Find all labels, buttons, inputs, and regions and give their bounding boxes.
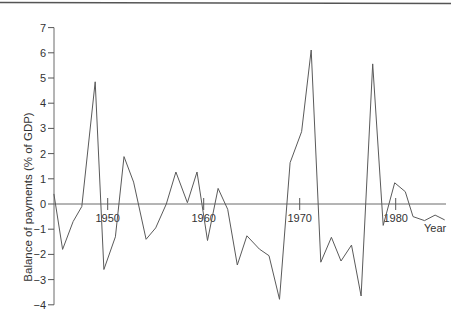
y-tick-label: 1 (40, 173, 46, 185)
y-tick-label: 7 (40, 22, 46, 34)
y-tick-label: −2 (33, 248, 46, 260)
y-axis-title: Balance of payments (% of GDP) (22, 112, 34, 282)
y-tick-label: 0 (40, 198, 46, 210)
x-tick-label: 1950 (95, 212, 119, 224)
y-tick-label: −3 (33, 274, 46, 286)
y-tick-label: 6 (40, 47, 46, 59)
balance-of-payments-chart: 76543210−1−2−3−4 1950196019701980 Balanc… (0, 0, 469, 327)
y-tick-label: 4 (40, 97, 46, 109)
y-tick-label: 3 (40, 122, 46, 134)
y-tick-label: 5 (40, 72, 46, 84)
x-tick-label: 1970 (287, 212, 311, 224)
x-tick-label: 1980 (383, 212, 407, 224)
y-tick-label: −1 (33, 223, 46, 235)
top-rule (0, 3, 451, 4)
balance-of-payments-line (54, 50, 445, 299)
y-axis: 76543210−1−2−3−4 (33, 22, 54, 311)
y-tick-label: −4 (33, 299, 46, 311)
y-tick-label: 2 (40, 148, 46, 160)
x-axis-title: Year (424, 222, 447, 234)
